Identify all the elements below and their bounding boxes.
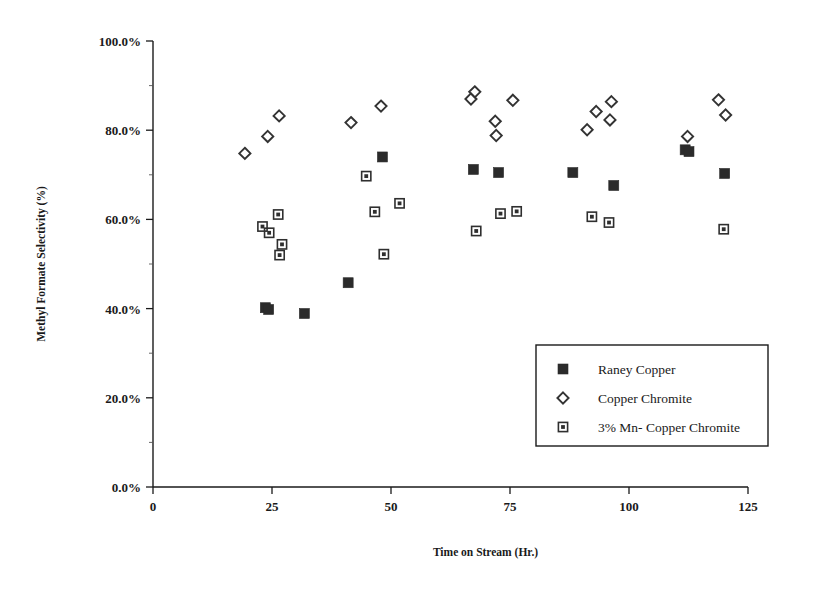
data-point-s1-11 [591, 106, 602, 117]
data-point-s0-8 [609, 181, 619, 191]
legend-label-1: Copper Chromite [598, 391, 692, 406]
y-tick-label: 40.0% [105, 302, 141, 317]
y-axis-title: Methyl Formate Selectivity (%) [35, 186, 48, 342]
data-point-s2-12-core [590, 215, 594, 219]
data-point-s1-3 [345, 117, 356, 128]
data-point-s2-10-core [499, 212, 503, 216]
data-point-s2-5-core [364, 174, 368, 178]
scatter-plot-canvas: 0.0%20.0%40.0%60.0%80.0%100.0%0255075100… [0, 0, 821, 594]
x-tick-label: 75 [504, 499, 518, 514]
y-tick-label: 20.0% [105, 391, 141, 406]
data-point-s2-4-core [278, 253, 282, 257]
data-point-s1-1 [262, 131, 273, 142]
data-point-s0-3 [343, 278, 353, 288]
data-point-s1-10 [582, 124, 593, 135]
x-tick-label: 125 [738, 499, 758, 514]
x-tick-label: 25 [266, 499, 280, 514]
x-axis-title: Time on Stream (Hr.) [433, 546, 538, 559]
data-point-s1-4 [375, 101, 386, 112]
data-point-s0-4 [377, 152, 387, 162]
data-point-s1-12 [606, 96, 617, 107]
data-point-s1-8 [491, 130, 502, 141]
legend-label-0: Raney Copper [598, 362, 676, 377]
y-tick-label: 100.0% [99, 34, 141, 49]
data-point-s2-1-core [267, 231, 271, 235]
data-point-s2-8-core [398, 201, 402, 205]
data-point-s2-11-core [515, 209, 519, 213]
chart-figure: 0.0%20.0%40.0%60.0%80.0%100.0%0255075100… [0, 0, 821, 594]
data-point-s1-16 [720, 109, 731, 120]
data-point-s1-2 [274, 110, 285, 121]
data-point-s2-7-core [382, 252, 386, 256]
legend-label-2: 3% Mn- Copper Chromite [598, 420, 740, 435]
y-tick-label: 60.0% [105, 212, 141, 227]
data-point-s2-2-core [276, 213, 280, 217]
data-point-s0-1 [264, 304, 274, 314]
data-point-s0-6 [494, 168, 504, 178]
data-point-s1-7 [490, 116, 501, 127]
x-tick-label: 50 [385, 499, 398, 514]
data-point-s0-10 [684, 147, 694, 157]
data-point-s1-5 [465, 93, 476, 104]
y-tick-label: 80.0% [105, 123, 141, 138]
data-point-s2-3-core [280, 242, 284, 246]
data-point-s2-9-core [474, 229, 478, 233]
data-point-s0-2 [299, 309, 309, 319]
data-point-s1-14 [682, 131, 693, 142]
data-point-s2-14-core [722, 227, 726, 231]
data-point-s0-5 [468, 164, 478, 174]
data-point-s0-7 [568, 168, 578, 178]
x-tick-label: 0 [150, 499, 157, 514]
data-point-s1-9 [507, 95, 518, 106]
legend-marker-0 [558, 364, 568, 374]
data-point-s1-6 [469, 86, 480, 97]
data-point-s0-11 [720, 168, 730, 178]
data-point-s2-6-core [373, 210, 377, 214]
data-point-s1-13 [604, 114, 615, 125]
y-tick-label: 0.0% [112, 480, 141, 495]
legend-marker-2-core [561, 425, 565, 429]
data-point-s2-13-core [607, 221, 611, 225]
data-point-s1-0 [239, 148, 250, 159]
x-tick-label: 100 [619, 499, 639, 514]
data-point-s1-15 [713, 94, 724, 105]
